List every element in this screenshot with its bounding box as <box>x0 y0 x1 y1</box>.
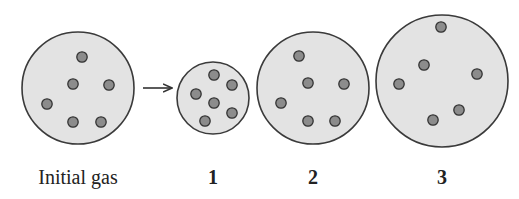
container-2 <box>257 32 369 144</box>
gas-particle <box>209 70 219 80</box>
gas-particle <box>303 78 313 88</box>
container-1 <box>177 62 249 134</box>
gas-particle <box>454 105 464 115</box>
gas-particle <box>419 60 429 70</box>
gas-particle <box>77 52 87 62</box>
gas-particle <box>472 69 482 79</box>
gas-particle <box>191 89 201 99</box>
label-container-1: 1 <box>208 166 218 189</box>
gas-particle <box>68 117 78 127</box>
gas-particle <box>436 22 446 32</box>
gas-particle <box>394 79 404 89</box>
gas-particle <box>428 115 438 125</box>
gas-particle <box>200 116 210 126</box>
container-circle <box>22 32 134 144</box>
container-circle <box>257 32 369 144</box>
gas-particle <box>227 80 237 90</box>
label-initial-gas: Initial gas <box>38 166 117 189</box>
label-container-2: 2 <box>308 166 318 189</box>
gas-particle <box>96 117 106 127</box>
gas-particle <box>276 98 286 108</box>
gas-particle <box>104 80 114 90</box>
label-container-3: 3 <box>437 166 447 189</box>
gas-particle <box>209 98 219 108</box>
gas-particle <box>339 79 349 89</box>
gas-particle <box>303 116 313 126</box>
gas-particle <box>294 51 304 61</box>
gas-particle <box>68 79 78 89</box>
container-initial <box>22 32 134 144</box>
gas-particle <box>330 116 340 126</box>
container-3 <box>376 15 508 147</box>
gas-particle <box>42 99 52 109</box>
gas-particle <box>227 108 237 118</box>
